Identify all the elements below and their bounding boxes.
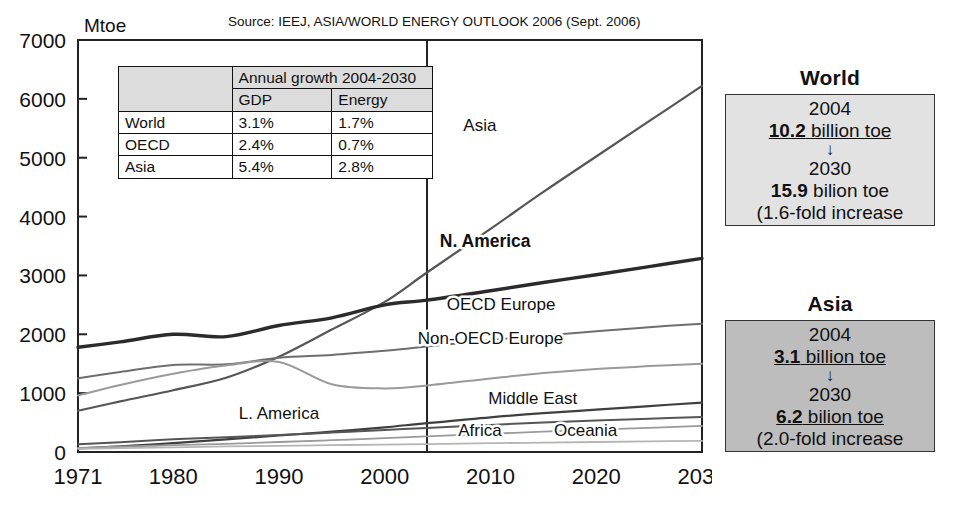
x-tick-label: 2030 — [678, 464, 712, 489]
table-span-header: Annual growth 2004-2030 — [232, 67, 432, 89]
panel-value-from-number: 3.1 — [774, 346, 800, 367]
panel-value-to: 6.2 bilion toe — [732, 406, 928, 428]
x-tick-label: 2010 — [466, 464, 515, 489]
panel-value-to-unit: bilion toe — [808, 180, 889, 201]
panel-box: 2004 10.2 billion toe ↓ 2030 15.9 bilion… — [725, 94, 935, 226]
table-cell-energy: 0.7% — [332, 134, 433, 156]
panel-value-from-unit: billion toe — [800, 346, 886, 367]
table-cell-gdp: 3.1% — [232, 111, 332, 133]
panel-year-to: 2030 — [732, 158, 928, 180]
table-row-world: World 3.1% 1.7% — [119, 111, 433, 133]
series-line-oecd-europe — [78, 324, 702, 379]
panel-box: 2004 3.1 billion toe ↓ 2030 6.2 bilion t… — [725, 320, 935, 452]
down-arrow-icon: ↓ — [732, 367, 928, 384]
source-note: Source: IEEJ, ASIA/WORLD ENERGY OUTLOOK … — [228, 14, 640, 29]
y-tick-label: 4000 — [19, 206, 66, 229]
table-row-oecd: OECD 2.4% 0.7% — [119, 134, 433, 156]
x-tick-label: 2020 — [572, 464, 621, 489]
summary-panel-asia: Asia 2004 3.1 billion toe ↓ 2030 6.2 bil… — [725, 292, 935, 452]
panel-footnote: (2.0-fold increase — [732, 428, 928, 450]
panel-value-to-unit: bilion toe — [803, 406, 884, 427]
panel-year-to: 2030 — [732, 384, 928, 406]
down-arrow-icon: ↓ — [732, 141, 928, 158]
x-tick-label: 1980 — [149, 464, 198, 489]
table-row-asia: Asia 5.4% 2.8% — [119, 156, 433, 178]
table-cell-gdp: 5.4% — [232, 156, 332, 178]
annual-growth-table: Annual growth 2004-2030 GDP Energy World… — [118, 66, 433, 179]
table-row-label: World — [119, 111, 233, 133]
panel-title: World — [725, 66, 935, 90]
x-tick-label: 1971 — [54, 464, 103, 489]
figure-root: Source: IEEJ, ASIA/WORLD ENERGY OUTLOOK … — [0, 0, 960, 509]
panel-value-to-number: 6.2 — [776, 406, 802, 427]
panel-value-from-unit: billion toe — [806, 120, 892, 141]
series-label-n-america: N. America — [440, 231, 531, 251]
x-tick-label: 2000 — [360, 464, 409, 489]
series-label-non-oecd-europe: Non-OECD Europe — [418, 329, 564, 348]
panel-value-from-number: 10.2 — [769, 120, 806, 141]
summary-panel-world: World 2004 10.2 billion toe ↓ 2030 15.9 … — [725, 66, 935, 226]
y-tick-label: 5000 — [19, 147, 66, 170]
series-label-oecd-europe: OECD Europe — [447, 295, 556, 314]
panel-value-from: 3.1 billion toe — [732, 346, 928, 368]
panel-value-to: 15.9 bilion toe — [732, 180, 928, 202]
series-label-asia: Asia — [463, 116, 497, 135]
panel-value-to-number: 15.9 — [771, 180, 808, 201]
series-label-middle-east: Middle East — [488, 389, 577, 408]
y-tick-label: 2000 — [19, 323, 66, 346]
panel-value-from: 10.2 billion toe — [732, 120, 928, 142]
table-row-label: Asia — [119, 156, 233, 178]
series-line-n-america — [78, 258, 702, 347]
table-col-gdp: GDP — [232, 89, 332, 111]
series-label-l-america: L. America — [239, 404, 320, 423]
y-tick-label: 0 — [54, 441, 66, 464]
y-tick-label: 7000 — [19, 29, 66, 52]
y-axis-unit-label: Mtoe — [84, 15, 126, 36]
table-cell-energy: 2.8% — [332, 156, 433, 178]
table-cell-energy: 1.7% — [332, 111, 433, 133]
y-tick-label: 6000 — [19, 88, 66, 111]
energy-demand-chart: Source: IEEJ, ASIA/WORLD ENERGY OUTLOOK … — [0, 0, 712, 509]
x-tick-label: 1990 — [254, 464, 303, 489]
table-header-row-1: Annual growth 2004-2030 — [119, 67, 433, 89]
table-corner-cell — [119, 67, 233, 112]
table-row-label: OECD — [119, 134, 233, 156]
panel-footnote: (1.6-fold increase — [732, 202, 928, 224]
series-label-africa: Africa — [458, 421, 502, 440]
panel-year-from: 2004 — [732, 98, 928, 120]
table-cell-gdp: 2.4% — [232, 134, 332, 156]
y-tick-label: 3000 — [19, 264, 66, 287]
panel-year-from: 2004 — [732, 324, 928, 346]
table-col-energy: Energy — [332, 89, 433, 111]
panel-title: Asia — [725, 292, 935, 316]
series-label-oceania: Oceania — [554, 421, 618, 440]
y-tick-label: 1000 — [19, 382, 66, 405]
